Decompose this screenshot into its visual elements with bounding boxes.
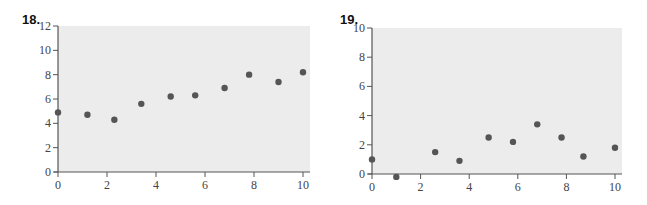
x-tick-label: 4 (466, 180, 472, 194)
data-point (558, 134, 564, 140)
data-point (580, 153, 586, 159)
data-point (456, 158, 462, 164)
data-point (612, 145, 618, 151)
y-tick-label: 10 (353, 21, 365, 35)
y-tick-label: 6 (359, 79, 365, 93)
plot-area (372, 28, 622, 174)
data-point (393, 174, 399, 180)
y-tick-label: 4 (359, 109, 365, 123)
y-tick-label: 2 (359, 138, 365, 152)
x-tick-label: 10 (609, 180, 621, 194)
data-point (432, 149, 438, 155)
data-point (485, 134, 491, 140)
data-point (510, 139, 516, 145)
y-tick-label: 0 (359, 167, 365, 181)
x-tick-label: 0 (369, 180, 375, 194)
y-tick-label: 8 (359, 50, 365, 64)
x-tick-label: 2 (418, 180, 424, 194)
data-point (369, 156, 375, 162)
scatter-chart-19: 02468100246810 (0, 0, 647, 205)
x-tick-label: 8 (563, 180, 569, 194)
x-tick-label: 6 (515, 180, 521, 194)
data-point (534, 121, 540, 127)
